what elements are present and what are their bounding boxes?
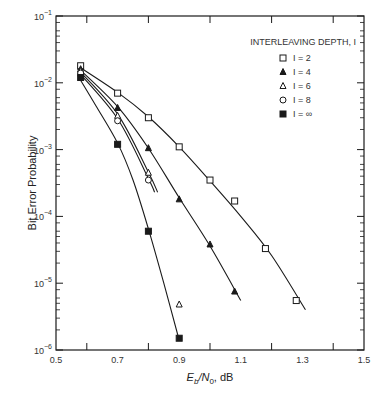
chart: 0.50.70.91.11.31.510−110−210−310−410−510… [0, 0, 379, 395]
x-tick-label: 0.5 [50, 355, 63, 365]
legend-label: I = 6 [293, 81, 311, 91]
x-tick-label: 1.1 [235, 355, 248, 365]
legend: INTERLEAVING DEPTH, II = 2I = 4I = 6I = … [250, 37, 356, 119]
data-point [115, 90, 121, 96]
curve-I [78, 75, 180, 340]
data-point [176, 144, 182, 150]
axes: 0.50.70.91.11.31.510−110−210−310−410−510… [34, 9, 370, 365]
legend-label: I = ∞ [293, 109, 312, 119]
legend-marker [280, 97, 286, 103]
x-label-unit: , dB [214, 371, 234, 383]
data-point [232, 288, 238, 294]
curve-I2 [78, 66, 306, 310]
data-point [293, 298, 299, 304]
legend-label: I = 8 [293, 95, 311, 105]
data-point [145, 169, 151, 175]
y-tick-label: 10−1 [34, 9, 52, 22]
legend-marker [280, 55, 286, 61]
y-axis-label: Bit Error Probability [26, 135, 38, 230]
legend-marker [280, 83, 286, 89]
data-point [232, 198, 238, 204]
legend-marker [280, 111, 286, 117]
data-point [176, 335, 182, 341]
data-point [115, 104, 121, 110]
y-tick-label: 10−5 [34, 276, 52, 289]
data-point [262, 246, 268, 252]
legend-title: INTERLEAVING DEPTH, I [250, 37, 356, 47]
x-tick-label: 0.7 [111, 355, 124, 365]
data-point [115, 141, 121, 147]
data-point [207, 177, 213, 183]
x-tick-label: 0.9 [173, 355, 186, 365]
data-point [176, 196, 182, 202]
x-axis-label: Eb/N0, dB [187, 371, 234, 386]
data-point [115, 118, 121, 124]
data-point [145, 177, 151, 183]
y-tick-label: 10−2 [34, 76, 52, 89]
curves [78, 66, 306, 340]
data-point [176, 301, 182, 307]
x-tick-label: 1.3 [296, 355, 309, 365]
legend-label: I = 4 [293, 67, 311, 77]
legend-label: I = 2 [293, 53, 311, 63]
x-tick-label: 1.5 [358, 355, 371, 365]
data-point [78, 75, 84, 81]
data-point [145, 115, 151, 121]
x-label-n: /N [197, 371, 209, 383]
data-point [145, 228, 151, 234]
legend-marker [280, 69, 286, 75]
curve-I8 [78, 71, 155, 192]
